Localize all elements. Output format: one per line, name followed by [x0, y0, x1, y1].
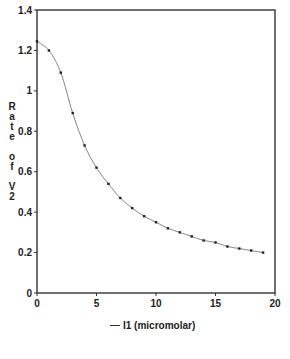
y-tick-label: 1 [26, 85, 32, 96]
data-point [143, 215, 145, 217]
y-tick-label: 0.2 [18, 247, 32, 258]
data-point [72, 112, 74, 114]
legend-line-swatch [110, 325, 120, 326]
y-tick-label: 0 [26, 288, 32, 299]
y-tick-label: 1.2 [18, 45, 32, 56]
data-point [262, 251, 264, 253]
data-point [179, 231, 181, 233]
data-point [155, 221, 157, 223]
y-axis-label-char: e [6, 132, 18, 142]
data-line [37, 41, 263, 252]
data-point [95, 166, 97, 168]
data-point [238, 247, 240, 249]
data-point [60, 71, 62, 73]
x-tick-label: 10 [150, 298, 162, 309]
y-axis-label: RateofV2 [6, 102, 18, 202]
data-point [83, 144, 85, 146]
data-point [48, 49, 50, 51]
y-tick-label: 1.4 [18, 5, 32, 16]
data-point [131, 207, 133, 209]
legend: I1 (micromolar) [110, 320, 195, 331]
data-point [36, 40, 38, 42]
line-chart: 00.20.40.60.811.21.4 05101520 [0, 0, 290, 359]
data-point [250, 249, 252, 251]
legend-label: I1 (micromolar) [123, 320, 195, 331]
plot-frame [37, 10, 275, 293]
y-tick-label: 0.6 [18, 166, 32, 177]
data-point [202, 239, 204, 241]
y-tick-label: 0.8 [18, 126, 32, 137]
x-tick-label: 5 [94, 298, 100, 309]
data-point [214, 241, 216, 243]
y-axis-label-char: f [6, 162, 18, 172]
x-axis-ticks: 05101520 [34, 293, 281, 309]
data-markers [36, 40, 264, 254]
data-point [191, 235, 193, 237]
x-tick-label: 15 [210, 298, 222, 309]
data-point [167, 227, 169, 229]
data-point [107, 183, 109, 185]
data-point [119, 197, 121, 199]
x-tick-label: 20 [269, 298, 281, 309]
y-axis-ticks: 00.20.40.60.811.21.4 [18, 5, 37, 299]
x-tick-label: 0 [34, 298, 40, 309]
y-tick-label: 0.4 [18, 207, 32, 218]
y-axis-label-char: 2 [6, 192, 18, 202]
data-point [226, 245, 228, 247]
